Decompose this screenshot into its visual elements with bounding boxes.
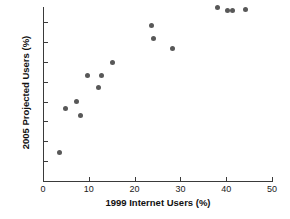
x-tick-mark (89, 177, 90, 181)
data-point (215, 5, 220, 10)
x-tick-label: 0 (23, 184, 63, 194)
y-tick-mark (44, 121, 48, 122)
y-tick-mark (44, 141, 48, 142)
data-point (99, 73, 104, 78)
x-tick-mark (43, 177, 44, 181)
x-tick-label: 40 (206, 184, 246, 194)
x-tick-label: 20 (115, 184, 155, 194)
x-axis-line (43, 181, 273, 182)
y-tick-mark (44, 62, 48, 63)
y-tick-mark (44, 102, 48, 103)
x-tick-label: 30 (160, 184, 200, 194)
y-axis-line (43, 7, 44, 182)
data-point (225, 8, 230, 13)
y-tick-mark (44, 82, 48, 83)
y-tick-mark (44, 22, 48, 23)
scatter-plot-figure: 01020304050607080 01020304050 1999 Inter… (0, 0, 290, 219)
data-point (78, 113, 83, 118)
y-tick-mark (44, 181, 48, 182)
x-tick-mark (226, 177, 227, 181)
x-tick-mark (180, 177, 181, 181)
data-point (230, 8, 235, 13)
y-tick-mark (44, 42, 48, 43)
x-tick-label: 10 (69, 184, 109, 194)
data-point (110, 60, 115, 65)
y-axis-title: 2005 Projected Users (%) (20, 5, 31, 181)
data-point (149, 23, 154, 28)
x-tick-mark (135, 177, 136, 181)
x-tick-label: 50 (252, 184, 290, 194)
data-point (170, 46, 175, 51)
x-axis-title: 1999 Internet Users (%) (43, 197, 273, 208)
plot-area (43, 7, 272, 181)
y-tick-mark (44, 161, 48, 162)
x-tick-mark (272, 177, 273, 181)
